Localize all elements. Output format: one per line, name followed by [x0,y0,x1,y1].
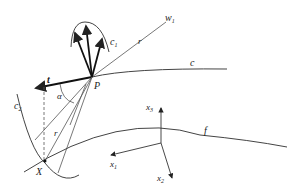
geometry-diagram: w1 r c1 c t P α c2 r X f x3 x1 x2 [0,0,296,192]
vector-3 [92,39,102,77]
point-x [44,160,47,163]
axis-x1 [111,143,161,155]
label-c2: c2 [14,100,21,112]
angle-alpha-arc [60,84,74,103]
curve-c2 [17,94,79,178]
label-alpha: α [57,91,62,101]
label-x3: x3 [145,102,153,113]
label-x1: x1 [109,159,117,170]
label-t: t [47,74,51,85]
line-p-3 [58,77,92,173]
label-r-upper: r [138,36,142,46]
label-f: f [204,125,208,136]
curve-f [24,128,287,172]
curve-c [92,69,227,77]
label-p: P [93,80,100,91]
ray-w1 [92,22,166,77]
label-x2: x2 [156,173,164,184]
line-p-4 [70,84,86,125]
label-x: X [35,166,43,177]
line-p-x [45,77,92,161]
axis-x2 [161,143,172,178]
label-c: c [190,57,195,68]
label-c1: c1 [110,36,117,48]
label-r-lower: r [54,128,58,138]
label-w1: w1 [165,12,175,24]
